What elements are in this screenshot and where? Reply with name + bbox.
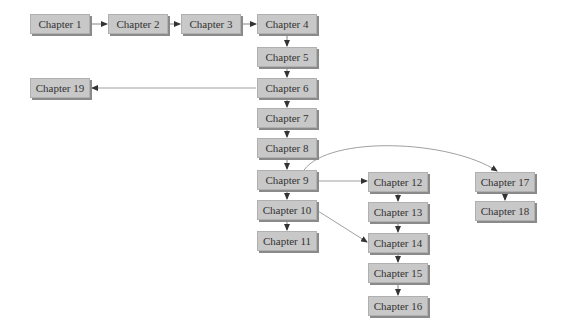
node-chapter-18: Chapter 18 [475, 201, 535, 221]
node-chapter-1: Chapter 1 [30, 14, 90, 34]
edge-c10-c14 [318, 211, 367, 242]
node-chapter-7: Chapter 7 [257, 108, 317, 128]
node-chapter-16: Chapter 16 [368, 296, 428, 316]
node-chapter-8: Chapter 8 [257, 138, 317, 158]
node-chapter-2: Chapter 2 [108, 14, 168, 34]
node-chapter-13: Chapter 13 [368, 202, 428, 222]
node-chapter-4: Chapter 4 [257, 14, 317, 34]
node-chapter-17: Chapter 17 [475, 172, 535, 192]
node-chapter-6: Chapter 6 [257, 78, 317, 98]
node-chapter-10: Chapter 10 [257, 200, 317, 220]
node-chapter-11: Chapter 11 [257, 231, 317, 251]
node-chapter-12: Chapter 12 [368, 172, 428, 192]
edge-c9-c17 [304, 146, 497, 171]
node-chapter-9: Chapter 9 [257, 170, 317, 190]
node-chapter-5: Chapter 5 [257, 47, 317, 67]
node-chapter-3: Chapter 3 [181, 14, 241, 34]
node-chapter-19: Chapter 19 [30, 78, 90, 98]
node-chapter-14: Chapter 14 [368, 233, 428, 253]
node-chapter-15: Chapter 15 [368, 263, 428, 283]
chapter-dependency-diagram: Chapter 1 Chapter 2 Chapter 3 Chapter 4 … [0, 0, 561, 335]
